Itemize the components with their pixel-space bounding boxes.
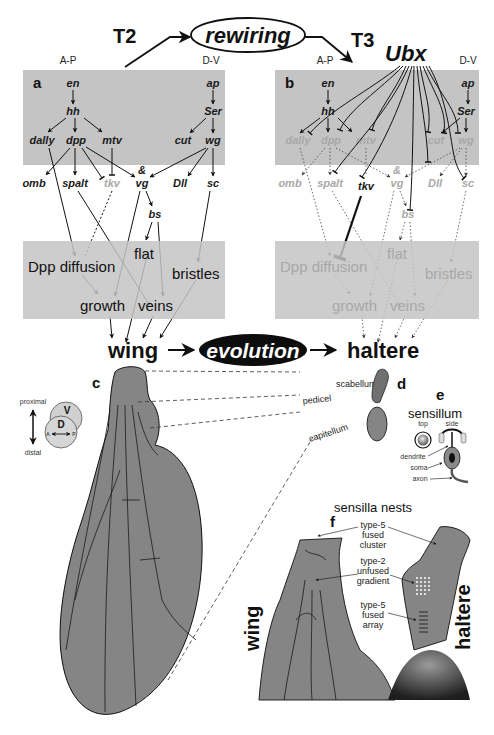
sensillum-top-core [418,435,429,446]
pheno-flat-b: flat [387,245,408,262]
haltere-stalk-illustration [372,369,388,403]
gene-tkv: tkv [104,177,121,189]
pheno-veins-a: veins [138,297,173,314]
gene-en: en [67,77,80,89]
top-label: top [418,420,428,428]
gene-amp-b: & [393,164,401,176]
axis-dv-a: D-V [202,55,220,66]
axis-ap-b: A-P [317,55,334,66]
gene-ser-b: Ser [457,105,475,117]
panel-c-letter: c [92,374,100,391]
panel-d-letter: d [397,375,406,392]
callouts: type-5 fused cluster type-2 unfused grad… [357,520,390,630]
haltere-base-bulb [388,650,470,700]
sensillum-nucleus [449,453,455,463]
pedicel-label: pedicel [302,393,331,406]
gene-bs: bs [149,208,162,220]
callout-type5-cluster-2: fused [362,530,384,540]
callout-type2-gradient-3: gradient [357,576,390,586]
panel-e-letter: e [436,386,444,403]
capitellum-label: capitellum [308,422,350,444]
callout-type2-gradient-2: unfused [357,566,389,576]
pheno-dpp-diffusion-b: Dpp diffusion [280,258,367,275]
gene-mtv: mtv [102,134,122,146]
gene-spalt-b: spalt [317,177,344,189]
gene-sc: sc [207,177,219,189]
panel-a-gene-box [23,70,225,165]
gene-bs-b: bs [402,208,415,220]
wing-label: wing [107,338,158,363]
dendrite-label: dendrite [400,453,425,460]
haltere-capitellum-illustration [367,407,387,441]
gene-sc-b: sc [462,177,474,189]
callout-type5-cluster-1: type-5 [360,520,385,530]
panel-b: A-P D-V b en hh dally dpp mtv omb spalt … [275,55,479,342]
pheno-growth-b: growth [332,297,377,314]
sensillum-axon [452,469,468,482]
figure-canvas: T2 rewiring T3 Ubx A-P D-V a en hh dally… [0,0,494,735]
sensillum-socket-right [461,433,466,443]
panel-f-letter: f [330,513,336,530]
axis-ap-a: A-P [60,55,77,66]
haltere-vertical-label: haltere [452,584,474,650]
gene-dll-b: Dll [428,177,443,189]
pheno-bristles-b: bristles [425,265,473,282]
gene-vg-b: vg [391,177,404,189]
gene-ap: ap [207,77,220,89]
gene-cut-b: cut [428,134,446,146]
axon-label: axon [412,475,427,482]
ubx-label: Ubx [385,41,427,66]
v-label: V [64,405,71,416]
haltere-label: haltere [347,338,419,363]
d-label: D [57,419,64,430]
rewiring-label: rewiring [205,23,291,48]
soma-label: soma [410,464,427,471]
gene-wg-b: wg [458,134,474,146]
panel-d: scabellum pedicel capitellum d [302,369,406,444]
scabellum-label: scabellum [336,379,377,389]
callout-type5-array-3: array [363,620,384,630]
gene-dally: dally [29,134,55,146]
gene-omb: omb [22,177,46,189]
gene-ap-b: ap [462,77,475,89]
evolution-label: evolution [206,339,299,362]
panel-b-letter: b [285,74,294,91]
panel-e: e sensillum top side dendrite soma axon [400,386,468,482]
gene-hh-b: hh [321,105,335,117]
panel-a: A-P D-V a en hh dally dpp mtv omb spalt … [22,55,225,342]
distal-label: distal [25,449,42,456]
gene-dpp: dpp [66,134,86,146]
pheno-veins-b: veins [390,297,425,314]
sensilla-nests-title: sensilla nests [334,500,413,515]
gene-dpp-b: dpp [321,134,341,146]
gene-hh: hh [66,105,80,117]
t3-label: T3 [351,29,374,51]
panel-f: sensilla nests f wing haltere [241,500,474,700]
gene-wg: wg [205,134,221,146]
sensillum-socket-left [439,433,444,443]
axis-dv-b: D-V [459,55,477,66]
gene-vg: vg [136,177,149,189]
gene-dally-b: dally [285,134,311,146]
pheno-bristles-a: bristles [172,265,220,282]
gene-amp: & [138,164,146,176]
gene-spalt: spalt [62,177,89,189]
gene-cut: cut [175,134,193,146]
panel-a-letter: a [33,74,42,91]
proximal-label: proximal [20,398,47,406]
pheno-growth-a: growth [80,297,125,314]
sensillum-title: sensillum [408,406,462,421]
callout-type5-array-1: type-5 [360,600,385,610]
pheno-dpp-diffusion-a: Dpp diffusion [28,258,115,275]
callout-type5-array-2: fused [362,610,384,620]
gene-tkv-b: tkv [358,180,375,192]
gene-omb-b: omb [278,177,302,189]
header: T2 rewiring T3 Ubx [113,18,427,67]
gene-mtv-b: mtv [356,134,376,146]
t2-label: T2 [113,25,136,47]
wing-vertical-label: wing [241,605,263,652]
gene-en-b: en [322,77,335,89]
gene-dll: Dll [173,177,188,189]
callout-type2-gradient-1: type-2 [360,556,385,566]
callout-type5-cluster-3: cluster [360,540,387,550]
